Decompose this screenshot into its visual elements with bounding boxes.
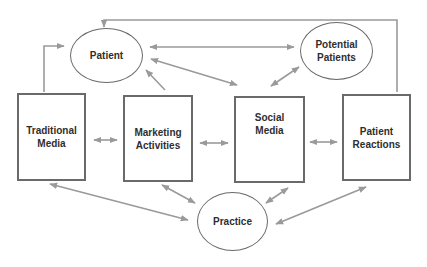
node-label: Traditional Media [26,124,77,150]
node-label: Practice [213,215,252,228]
node-label: Patient Reactions [353,125,401,151]
node-traditional-media: Traditional Media [17,93,86,181]
node-marketing-activities: Marketing Activities [123,95,193,182]
edge-marketing-practice [162,185,195,203]
node-practice: Practice [197,192,268,251]
node-label: Social Media [255,111,284,137]
edge-traditional-practice [50,184,188,220]
edge-patient-social [151,59,237,85]
edge-reactions-practice [276,187,366,224]
edge-social-practice [266,188,288,203]
node-patient-reactions: Patient Reactions [342,94,411,181]
node-label: Marketing Activities [134,126,181,152]
node-potential-patients: Potential Patients [300,22,373,80]
edge-marketing-to-patient [146,70,165,90]
edge-traditional-to-patient [44,46,64,92]
node-label: Potential Patients [315,38,357,64]
edge-social-potential [271,67,299,86]
node-label: Patient [90,49,123,62]
node-social-media: Social Media [234,96,305,183]
node-patient: Patient [70,28,143,83]
